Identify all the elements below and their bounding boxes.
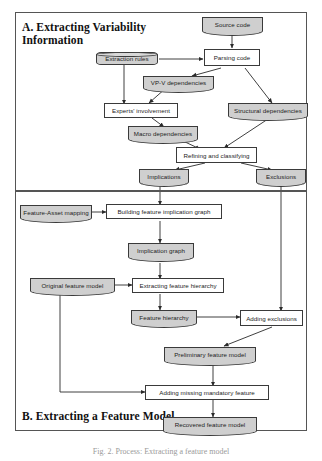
- node-label: Preliminary feature model: [174, 351, 246, 358]
- node-building-feature-implication-graph[interactable]: Building feature implication graph: [106, 204, 222, 219]
- node-label: Implications: [147, 173, 180, 180]
- node-label: Adding missing mandatory feature: [159, 389, 255, 396]
- node-label: Feature-Asset mapping: [23, 209, 88, 216]
- node-preliminary-feature-model[interactable]: Preliminary feature model: [164, 347, 256, 361]
- node-label: Extraction rules: [105, 55, 148, 62]
- node-label: VP-V dependencies: [151, 79, 207, 86]
- node-implications[interactable]: Implications: [139, 169, 189, 182]
- node-label: Parsing code: [214, 54, 251, 61]
- figure-process-diagram: A. Extracting Variability Information B.…: [0, 0, 322, 461]
- node-label: Building feature implication graph: [117, 208, 210, 215]
- node-structural-dependencies[interactable]: Structural dependencies: [228, 103, 308, 116]
- node-adding-exclusions[interactable]: Adding exclusions: [240, 310, 303, 326]
- node-vpv-dependencies[interactable]: VP-V dependencies: [143, 76, 214, 88]
- node-extracting-feature-hierarchy[interactable]: Extracting feature hierarchy: [132, 278, 224, 293]
- node-source-code[interactable]: Source code: [202, 17, 263, 31]
- figure-caption: Fig. 2. Process: Extracting a feature mo…: [0, 447, 322, 461]
- node-macro-dependencies[interactable]: Macro dependencies: [128, 126, 198, 139]
- node-extraction-rules[interactable]: Extraction rules: [96, 52, 158, 65]
- node-label: Exclusions: [266, 173, 296, 180]
- panel-a-title: A. Extracting Variability Information: [22, 21, 146, 47]
- node-feature-asset-mapping[interactable]: Feature-Asset mapping: [20, 205, 92, 218]
- node-parsing-code[interactable]: Parsing code: [204, 49, 260, 66]
- node-label: Adding exclusions: [246, 315, 297, 322]
- node-label: Macro dependencies: [134, 130, 192, 137]
- node-label: Source code: [215, 21, 250, 28]
- node-label: Implication graph: [137, 247, 185, 254]
- node-experts-involvement[interactable]: Experts' involvement: [104, 103, 178, 118]
- node-label: Extracting feature hierarchy: [139, 282, 216, 289]
- node-label: Feature hierarchy: [139, 314, 188, 321]
- node-label: Recovered feature model: [175, 421, 246, 428]
- node-feature-hierarchy[interactable]: Feature hierarchy: [131, 310, 197, 323]
- node-label: Experts' involvement: [112, 107, 170, 114]
- node-label: Structural dependencies: [234, 107, 302, 114]
- panel-b-title: B. Extracting a Feature Model: [22, 410, 174, 423]
- node-implication-graph[interactable]: Implication graph: [128, 243, 194, 257]
- node-exclusions[interactable]: Exclusions: [256, 169, 306, 182]
- node-original-feature-model[interactable]: Original feature model: [30, 278, 115, 291]
- node-recovered-feature-model[interactable]: Recovered feature model: [163, 417, 257, 431]
- node-adding-missing-mandatory-feature[interactable]: Adding missing mandatory feature: [145, 385, 269, 400]
- node-label: Original feature model: [42, 282, 104, 289]
- node-label: Refining and classifying: [183, 152, 249, 159]
- node-refining-and-classifying[interactable]: Refining and classifying: [176, 147, 257, 163]
